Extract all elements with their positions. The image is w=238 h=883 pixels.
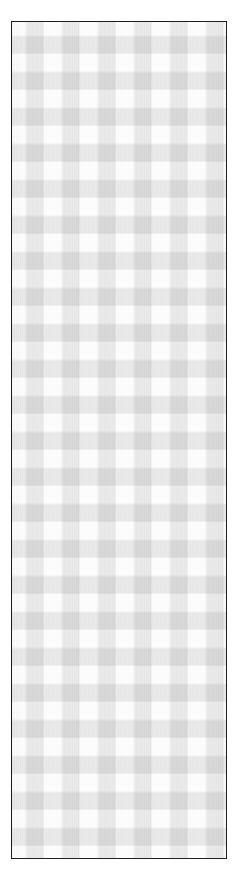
image-canvas: A tall narrow rectangular swatch of grey… xyxy=(0,0,238,883)
gingham-pattern xyxy=(12,22,226,858)
image-description: A tall narrow rectangular swatch of grey… xyxy=(0,0,1,1)
gingham-fabric-swatch xyxy=(11,21,227,859)
gingham-horizontal-stripes xyxy=(11,21,227,859)
